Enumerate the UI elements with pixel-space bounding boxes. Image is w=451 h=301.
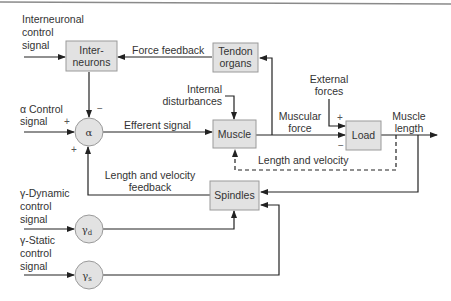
svg-text:force: force	[288, 122, 312, 134]
svg-text:control: control	[20, 200, 52, 212]
spindles-label: Spindles	[214, 189, 254, 201]
svg-text:Muscle: Muscle	[392, 110, 425, 122]
gamma-s-subscript: s	[88, 275, 92, 283]
load-block: Load	[346, 121, 381, 150]
svg-text:Length and velocity: Length and velocity	[105, 169, 196, 181]
svg-text:control: control	[20, 247, 52, 259]
force-feedback-label: Force feedback	[132, 44, 205, 56]
alpha-symbol: α	[86, 127, 93, 138]
tendon-organs-block: Tendon organs	[213, 43, 258, 72]
gamma-d-to-spindles-arrow	[103, 211, 234, 229]
top-rule	[0, 2, 451, 4]
svg-text:length: length	[395, 122, 424, 134]
muscle-block: Muscle	[213, 120, 256, 148]
svg-text:Internal: Internal	[187, 83, 222, 95]
svg-text:External: External	[310, 73, 349, 85]
alpha-control-label: α Control signal	[20, 103, 63, 127]
internal-disturbances-arrow	[225, 96, 234, 119]
alpha-minus-top: −	[97, 103, 103, 114]
load-plus-sign: +	[337, 112, 343, 123]
gamma-s-to-spindles-arrow	[103, 205, 279, 275]
svg-text:control: control	[22, 26, 54, 38]
internal-disturbances-label: Internal disturbances	[162, 83, 222, 107]
svg-text:disturbances: disturbances	[162, 95, 222, 107]
length-velocity-feedback-label: Length and velocity feedback	[105, 169, 196, 193]
muscle-control-diagram: Inter- neurons Tendon organs Muscle Load…	[0, 0, 451, 301]
interneurons-block: Inter- neurons	[66, 41, 117, 71]
spindles-block: Spindles	[210, 181, 259, 210]
svg-text:Muscular: Muscular	[279, 110, 322, 122]
svg-text:Interneuronal: Interneuronal	[22, 13, 84, 25]
svg-text:feedback: feedback	[129, 181, 172, 193]
svg-text:γ-Dynamic: γ-Dynamic	[20, 187, 70, 199]
interneurons-label-2: neurons	[73, 56, 111, 68]
external-forces-label: External forces	[310, 73, 349, 97]
tendon-organs-label-1: Tendon	[218, 45, 253, 57]
tendon-organs-label-2: organs	[219, 57, 251, 69]
svg-text:γ-Static: γ-Static	[20, 234, 55, 246]
gamma-dynamic-label: γ-Dynamic control signal	[20, 187, 70, 225]
load-minus-sign: −	[338, 140, 344, 151]
svg-text:signal: signal	[20, 213, 47, 225]
muscular-force-label: Muscular force	[279, 110, 322, 134]
load-label: Load	[352, 129, 376, 141]
alpha-plus-left: +	[64, 116, 70, 127]
gamma-static-label: γ-Static control signal	[20, 234, 55, 272]
alpha-plus-bottom: +	[71, 144, 77, 155]
svg-text:α Control: α Control	[20, 103, 63, 115]
gamma-d-node: γd	[75, 215, 103, 243]
muscle-length-label: Muscle length	[392, 110, 425, 134]
gamma-d-subscript: d	[88, 229, 93, 237]
muscle-label: Muscle	[218, 128, 251, 140]
interneurons-label-1: Inter-	[79, 44, 104, 56]
gamma-s-node: γs	[75, 261, 103, 289]
svg-text:signal: signal	[20, 115, 47, 127]
muscle-to-tendon-arrow	[260, 58, 272, 135]
svg-text:signal: signal	[22, 39, 49, 51]
length-velocity-label: Length and velocity	[258, 154, 349, 166]
svg-text:signal: signal	[20, 260, 47, 272]
svg-text:forces: forces	[315, 85, 344, 97]
efferent-signal-label: Efferent signal	[124, 119, 191, 131]
alpha-node: α	[75, 118, 103, 146]
